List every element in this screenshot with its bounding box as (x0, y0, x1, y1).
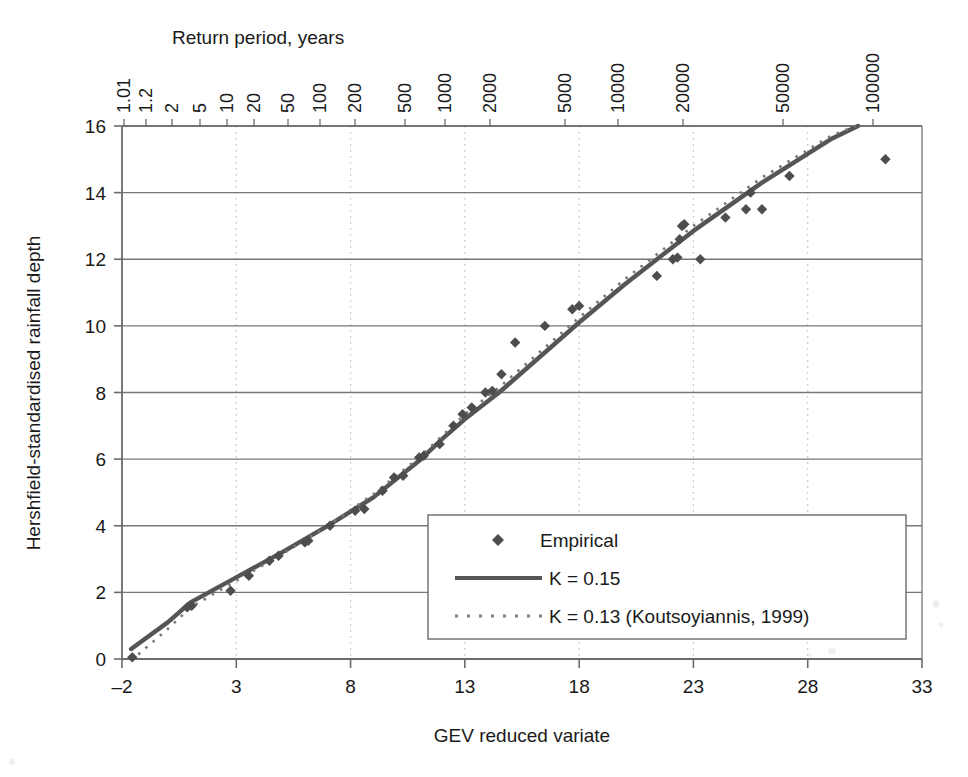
legend-label-k013: K = 0.13 (Koutsoyiannis, 1999) (549, 606, 809, 627)
x-tick-label: 3 (231, 676, 242, 697)
top-axis-tick-label: 20 (244, 93, 264, 113)
x-tick-label: 33 (911, 676, 932, 697)
x-tick-label: 8 (345, 676, 356, 697)
top-axis-tick-label: 2 (162, 103, 182, 113)
top-axis-tick-label: 1.2 (136, 88, 156, 113)
top-axis-tick-label: 50000 (773, 63, 793, 113)
x-tick-label: 13 (454, 676, 475, 697)
y-tick-label: 6 (95, 449, 106, 470)
top-axis-tick-label: 500 (395, 83, 415, 113)
chart-legend: Empirical K = 0.15 K = 0.13 (Koutsoyiann… (428, 515, 906, 639)
x-axis-title: GEV reduced variate (434, 725, 610, 746)
rainfall-frequency-chart: Return period, years 1.011.2251020501002… (0, 0, 968, 777)
y-tick-label: 2 (95, 582, 106, 603)
top-axis-tick-label: 10000 (608, 63, 628, 113)
top-axis-tick-label: 2000 (480, 73, 500, 113)
x-tick-label: 23 (683, 676, 704, 697)
legend-label-empirical: Empirical (540, 530, 618, 551)
legend-label-k015: K = 0.15 (549, 568, 620, 589)
y-tick-label: 16 (85, 116, 106, 137)
y-tick-label: 8 (95, 383, 106, 404)
top-axis-tick-label: 10 (217, 93, 237, 113)
top-axis-tick-label: 5000 (555, 73, 575, 113)
x-tick-label: 18 (569, 676, 590, 697)
y-tick-label: 14 (85, 183, 107, 204)
top-axis-tick-label: 200 (345, 83, 365, 113)
top-axis-tick-label: 100000 (863, 53, 883, 113)
y-axis-title: Hershfield-standardised rainfall depth (23, 236, 44, 551)
top-axis-tick-label: 5 (190, 103, 210, 113)
chart-figure: Return period, years 1.011.2251020501002… (0, 0, 968, 777)
x-tick-label: 28 (797, 676, 818, 697)
y-tick-label: 10 (85, 316, 106, 337)
y-tick-label: 4 (95, 516, 106, 537)
x-tick-label: –2 (111, 676, 132, 697)
top-axis-tick-label: 50 (278, 93, 298, 113)
top-axis-tick-label: 20000 (673, 63, 693, 113)
top-axis-tick-label: 1000 (435, 73, 455, 113)
y-tick-label: 12 (85, 249, 106, 270)
top-axis-tick-label: 100 (310, 83, 330, 113)
y-tick-label: 0 (95, 649, 106, 670)
top-axis-title: Return period, years (172, 27, 344, 48)
top-axis-tick-label: 1.01 (114, 78, 134, 113)
chart-background (0, 0, 968, 777)
